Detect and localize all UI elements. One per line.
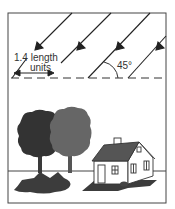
angle-arc <box>104 62 118 78</box>
length-label-line2: units <box>30 63 51 73</box>
tree-trunks <box>38 155 72 173</box>
solar-angle-diagram <box>0 0 175 209</box>
tree-light <box>50 107 92 157</box>
tree-shadows <box>14 172 70 194</box>
bush <box>120 182 128 187</box>
angle-label: 45° <box>117 61 132 71</box>
house <box>92 138 155 184</box>
